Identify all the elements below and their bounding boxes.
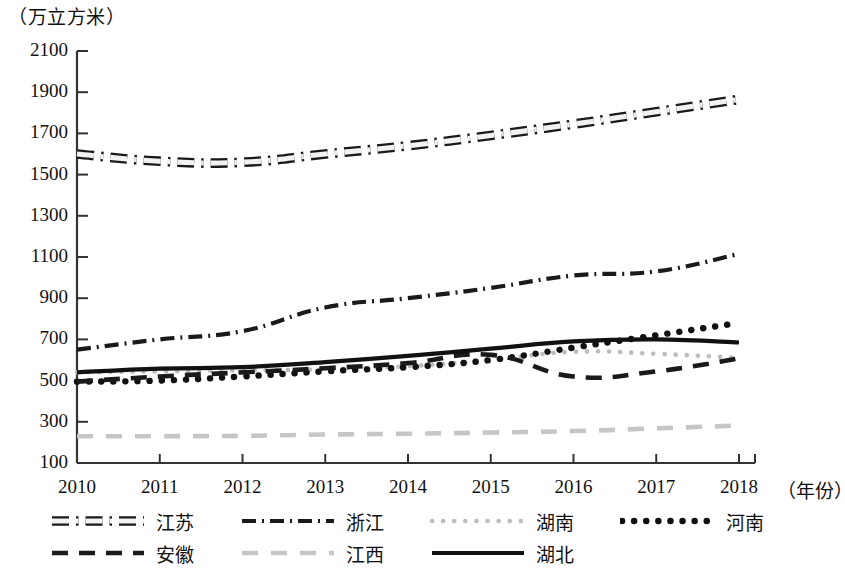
y-axis-tick-label: 2100 xyxy=(6,39,68,61)
x-axis-tick-label: 2014 xyxy=(368,476,448,498)
x-axis-tick-label: 2012 xyxy=(203,476,283,498)
legend-swatch-dash-dot xyxy=(240,513,336,529)
legend-label: 安徽 xyxy=(156,540,194,567)
legend-label: 湖南 xyxy=(536,508,574,535)
y-axis-tick-label: 500 xyxy=(6,369,68,391)
x-axis-tick-label: 2010 xyxy=(37,476,117,498)
legend-item-江苏[interactable]: 江苏 xyxy=(50,508,194,535)
legend-item-安徽[interactable]: 安徽 xyxy=(50,540,194,567)
series-line-江苏 xyxy=(77,99,739,163)
series-line-江西 xyxy=(77,426,739,437)
y-axis-tick-label: 300 xyxy=(6,410,68,432)
legend-item-湖北[interactable]: 湖北 xyxy=(430,540,574,567)
y-axis-tick-label: 900 xyxy=(6,286,68,308)
x-axis-tick-label: 2017 xyxy=(616,476,696,498)
legend-swatch-dotted-bold xyxy=(620,513,716,529)
legend-label: 湖北 xyxy=(536,540,574,567)
legend-swatch-solid-thick xyxy=(430,545,526,561)
x-axis-tick-label: 2018 xyxy=(699,476,779,498)
chart-legend: 江苏浙江湖南河南 安徽江西湖北 xyxy=(0,505,797,569)
series-line-fill-江苏 xyxy=(77,99,739,163)
x-axis-title: （年份） xyxy=(777,476,845,503)
legend-item-江西[interactable]: 江西 xyxy=(240,540,384,567)
x-axis-tick-label: 2011 xyxy=(120,476,200,498)
y-axis-tick-label: 700 xyxy=(6,327,68,349)
y-axis-tick-label: 1500 xyxy=(6,163,68,185)
legend-item-河南[interactable]: 河南 xyxy=(620,508,764,535)
legend-row-top: 江苏浙江湖南河南 xyxy=(0,505,797,537)
x-axis-tick-label: 2015 xyxy=(451,476,531,498)
legend-swatch-dash-dot-outline xyxy=(50,513,146,529)
legend-swatch-dashed xyxy=(50,545,146,561)
y-axis-tick-label: 100 xyxy=(6,451,68,473)
y-axis-tick-label: 1300 xyxy=(6,204,68,226)
series-line-湖北 xyxy=(77,339,739,372)
legend-label: 江苏 xyxy=(156,508,194,535)
y-axis-tick-label: 1100 xyxy=(6,245,68,267)
plot-area xyxy=(0,0,797,500)
legend-row-bottom: 安徽江西湖北 xyxy=(0,537,797,569)
x-axis-tick-label: 2016 xyxy=(534,476,614,498)
legend-swatch-dotted-light xyxy=(430,513,526,529)
legend-label: 江西 xyxy=(346,540,384,567)
plot-svg xyxy=(0,0,797,500)
y-axis-tick-label: 1900 xyxy=(6,80,68,102)
y-axis-tick-label: 1700 xyxy=(6,121,68,143)
legend-label: 浙江 xyxy=(346,508,384,535)
series-line-浙江 xyxy=(77,254,739,350)
legend-swatch-dashed-light xyxy=(240,545,336,561)
legend-item-湖南[interactable]: 湖南 xyxy=(430,508,574,535)
legend-label: 河南 xyxy=(726,508,764,535)
legend-item-浙江[interactable]: 浙江 xyxy=(240,508,384,535)
x-axis-tick-label: 2013 xyxy=(285,476,365,498)
